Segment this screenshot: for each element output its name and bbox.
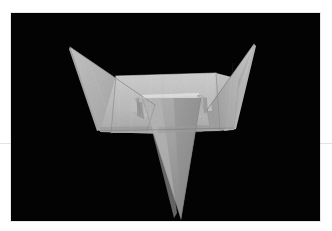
screenshot-canvas (0, 0, 332, 231)
paper-model-illustration (11, 13, 320, 221)
margin-rule-right (320, 143, 332, 144)
photo-plate (11, 13, 320, 221)
